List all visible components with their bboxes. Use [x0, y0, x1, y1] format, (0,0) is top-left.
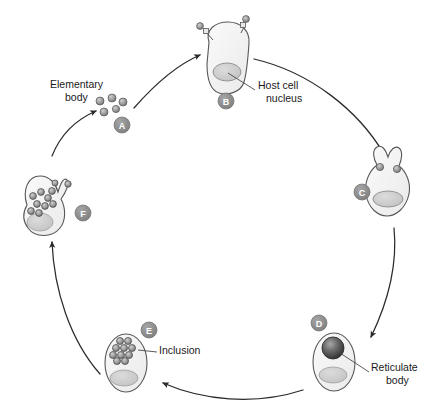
arrow-b-to-c [254, 59, 384, 154]
stage-marker-b[interactable]: B [218, 93, 234, 109]
diagram-labels: Elementary body Host cell nucleus Inclus… [50, 78, 421, 386]
stage-markers: A B C D E F [75, 93, 370, 338]
stage-e-inclusion [105, 334, 147, 392]
elementary-body-label-line1: Elementary [50, 78, 104, 90]
host-cell-nucleus-label: Host cell nucleus [258, 79, 302, 104]
stage-marker-b-letter: B [223, 97, 230, 107]
arrow-f-to-a [52, 111, 96, 156]
host-cell-nucleus-c [373, 191, 403, 207]
stage-marker-e-letter: E [146, 326, 152, 336]
stage-marker-e[interactable]: E [141, 322, 157, 338]
host-cell-nucleus-d [319, 367, 347, 383]
host-cell-body-b [207, 22, 249, 94]
stage-marker-a[interactable]: A [114, 117, 130, 133]
arrow-e-to-f [52, 242, 100, 374]
stage-f-lysis-release [24, 176, 71, 236]
cycle-diagram-canvas: A B C D E F Elementary body Host ce [0, 0, 441, 420]
stage-marker-f[interactable]: F [75, 205, 91, 221]
arrow-d-to-e [163, 383, 303, 399]
reticulate-body-label: Reticulate body [371, 361, 421, 386]
arrow-a-to-b [134, 55, 200, 108]
stage-a-elementary-bodies [96, 94, 127, 116]
leader-lines [138, 73, 369, 372]
chlamydia-cycle-diagram: A B C D E F Elementary body Host ce [0, 0, 441, 420]
reticulate-body-label-line1: Reticulate [371, 361, 418, 373]
stage-marker-c-letter: C [359, 188, 366, 198]
stage-d-reticulate-body [313, 333, 355, 391]
reticulate-body-label-line2: body [386, 374, 410, 386]
elementary-body-label-line2: body [65, 91, 89, 103]
stage-marker-a-letter: A [119, 121, 126, 131]
host-cell-nucleus-label-line1: Host cell [258, 79, 298, 91]
stage-marker-f-letter: F [80, 209, 86, 219]
inclusion-label: Inclusion [159, 344, 201, 356]
arrow-c-to-d [371, 228, 395, 337]
reticulate-body-sphere [322, 337, 344, 359]
stage-marker-c[interactable]: C [354, 184, 370, 200]
stage-b-host-cell [197, 16, 250, 94]
stage-marker-d-letter: D [316, 319, 323, 329]
host-cell-nucleus-e [110, 370, 138, 386]
stage-c-endocytosis [366, 146, 410, 216]
stage-marker-d[interactable]: D [311, 315, 327, 331]
host-cell-nucleus-label-line2: nucleus [266, 92, 302, 104]
